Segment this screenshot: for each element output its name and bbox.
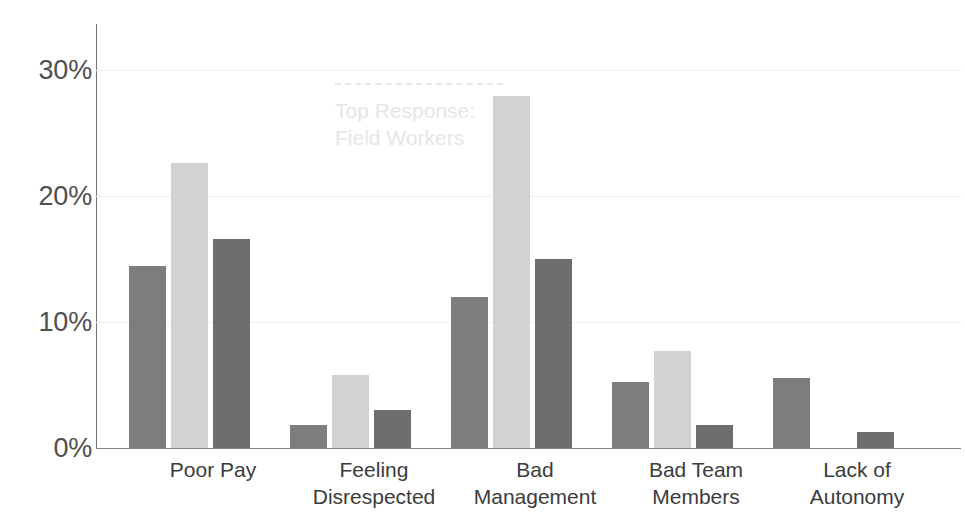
bar-feeling-disrespected-series-2 <box>332 375 369 448</box>
bar-bad-management-series-2 <box>493 96 530 448</box>
plot-area: Top Response: Field Workers <box>96 24 961 448</box>
bar-poor-pay-series-1 <box>129 266 166 448</box>
bar-poor-pay-series-2 <box>171 163 208 448</box>
bar-chart: 30% 20% 10% 0% Top Response: Field Worke… <box>0 0 965 526</box>
x-tick-label-bad-management: Bad Management <box>455 456 615 510</box>
bar-poor-pay-series-3 <box>213 239 250 448</box>
x-tick-label-bad-team-members: Bad Team Members <box>616 456 776 510</box>
bar-lack-of-autonomy-series-1 <box>773 378 810 448</box>
x-axis-line <box>96 448 961 449</box>
y-tick-label-0: 0% <box>8 435 92 462</box>
y-tick-label-20: 20% <box>8 183 92 210</box>
bar-feeling-disrespected-series-3 <box>374 410 411 448</box>
bar-lack-of-autonomy-series-3 <box>857 432 894 448</box>
bar-bad-management-series-1 <box>451 297 488 448</box>
x-tick-label-feeling-disrespected: Feeling Disrespected <box>294 456 454 510</box>
x-tick-label-lack-of-autonomy: Lack of Autonomy <box>777 456 937 510</box>
bar-bad-team-members-series-3 <box>696 425 733 448</box>
x-tick-label-poor-pay: Poor Pay <box>133 456 293 483</box>
y-tick-label-30: 30% <box>8 57 92 84</box>
y-tick-label-10: 10% <box>8 309 92 336</box>
bar-bad-management-series-3 <box>535 259 572 448</box>
gridline-30 <box>96 70 961 71</box>
annotation-label-top-response: Top Response: Field Workers <box>335 97 475 151</box>
y-axis-tick-labels: 30% 20% 10% 0% <box>0 0 92 526</box>
bar-bad-team-members-series-1 <box>612 382 649 448</box>
annotation-dashed-line <box>335 83 503 85</box>
bar-feeling-disrespected-series-1 <box>290 425 327 448</box>
bar-bad-team-members-series-2 <box>654 351 691 448</box>
